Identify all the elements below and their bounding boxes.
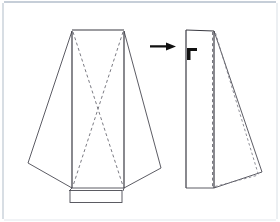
diagram-canvas [0, 0, 280, 222]
folding-transformation-diagram [0, 0, 280, 222]
diagram-border-frame [0, 0, 280, 222]
